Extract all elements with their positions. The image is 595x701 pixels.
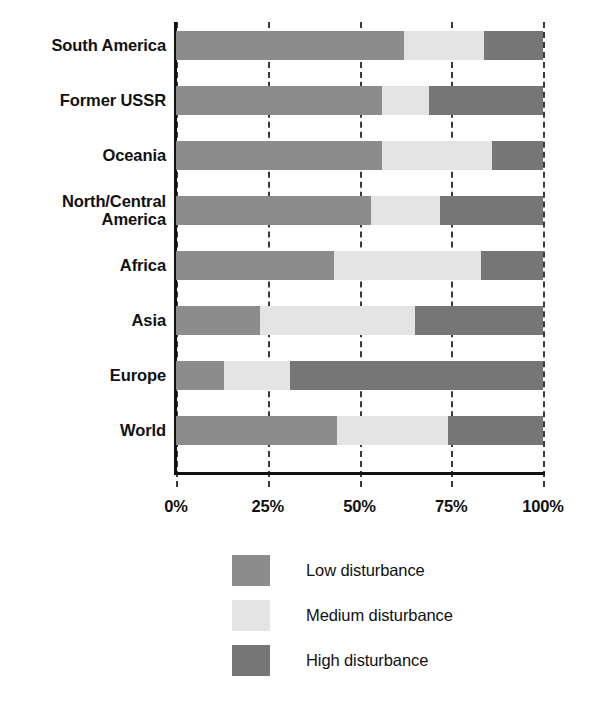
bar-segment-medium[interactable] xyxy=(334,251,481,280)
y-axis-label-line: Europe xyxy=(0,366,166,384)
bar-segment-high[interactable] xyxy=(440,196,543,225)
stacked-bar-chart: South AmericaFormer USSROceaniaNorth/Cen… xyxy=(0,0,595,701)
bar-row[interactable] xyxy=(176,416,543,445)
x-tick-label-100pct: 100% xyxy=(522,497,563,516)
y-axis-label-line: North/Central xyxy=(0,192,166,210)
bar-segment-medium[interactable] xyxy=(382,141,492,170)
stacked-bar[interactable] xyxy=(176,361,543,390)
bar-segment-medium[interactable] xyxy=(371,196,441,225)
legend: Low disturbanceMedium disturbanceHigh di… xyxy=(232,548,453,683)
bar-segment-medium[interactable] xyxy=(337,416,447,445)
y-axis-label-world: World xyxy=(0,421,166,439)
legend-swatch-low xyxy=(232,555,270,586)
bar-segment-high[interactable] xyxy=(448,416,543,445)
y-axis-label-line: Asia xyxy=(0,311,166,329)
legend-swatch-medium xyxy=(232,600,270,631)
y-axis-label-europe: Europe xyxy=(0,366,166,384)
stacked-bar[interactable] xyxy=(176,416,543,445)
bar-segment-medium[interactable] xyxy=(224,361,290,390)
gridline-100pct xyxy=(543,22,545,487)
bar-segment-low[interactable] xyxy=(176,416,337,445)
bar-segment-high[interactable] xyxy=(415,306,543,335)
y-axis-label-north-central-america: North/CentralAmerica xyxy=(0,192,166,228)
stacked-bar[interactable] xyxy=(176,86,543,115)
bar-segment-medium[interactable] xyxy=(382,86,430,115)
bar-segment-low[interactable] xyxy=(176,141,382,170)
bar-segment-low[interactable] xyxy=(176,361,224,390)
plot-area xyxy=(176,22,543,474)
bar-row[interactable] xyxy=(176,31,543,60)
bar-row[interactable] xyxy=(176,141,543,170)
y-axis-label-line: Africa xyxy=(0,256,166,274)
y-axis-label-line: Former USSR xyxy=(0,91,166,109)
stacked-bar[interactable] xyxy=(176,141,543,170)
bar-row[interactable] xyxy=(176,306,543,335)
y-axis-label-line: South America xyxy=(0,36,166,54)
bar-row[interactable] xyxy=(176,251,543,280)
bar-segment-medium[interactable] xyxy=(404,31,485,60)
legend-swatch-high xyxy=(232,645,270,676)
bar-segment-high[interactable] xyxy=(429,86,543,115)
y-axis-label-line: Oceania xyxy=(0,146,166,164)
y-axis-label-asia: Asia xyxy=(0,311,166,329)
x-tick-label-50pct: 50% xyxy=(343,497,375,516)
bar-row[interactable] xyxy=(176,86,543,115)
stacked-bar[interactable] xyxy=(176,306,543,335)
x-tick-label-0pct: 0% xyxy=(164,497,187,516)
legend-item-medium[interactable]: Medium disturbance xyxy=(232,593,453,638)
bar-segment-low[interactable] xyxy=(176,31,404,60)
legend-label-low: Low disturbance xyxy=(306,561,425,580)
bar-segment-medium[interactable] xyxy=(260,306,414,335)
legend-item-low[interactable]: Low disturbance xyxy=(232,548,453,593)
y-axis-label-oceania: Oceania xyxy=(0,146,166,164)
legend-label-medium: Medium disturbance xyxy=(306,606,453,625)
bar-segment-high[interactable] xyxy=(481,251,543,280)
bar-row[interactable] xyxy=(176,196,543,225)
y-axis-label-line: World xyxy=(0,421,166,439)
bar-segment-low[interactable] xyxy=(176,306,260,335)
stacked-bar[interactable] xyxy=(176,251,543,280)
legend-item-high[interactable]: High disturbance xyxy=(232,638,453,683)
bar-segment-high[interactable] xyxy=(484,31,543,60)
bar-row[interactable] xyxy=(176,361,543,390)
bar-segment-low[interactable] xyxy=(176,251,334,280)
x-tick-label-25pct: 25% xyxy=(252,497,284,516)
bar-segment-low[interactable] xyxy=(176,196,371,225)
bar-segment-high[interactable] xyxy=(290,361,543,390)
stacked-bar[interactable] xyxy=(176,31,543,60)
y-axis-label-africa: Africa xyxy=(0,256,166,274)
y-axis-label-former-ussr: Former USSR xyxy=(0,91,166,109)
y-axis-label-line: America xyxy=(0,210,166,228)
x-tick-label-75pct: 75% xyxy=(435,497,467,516)
bar-segment-low[interactable] xyxy=(176,86,382,115)
bar-segment-high[interactable] xyxy=(492,141,543,170)
legend-label-high: High disturbance xyxy=(306,651,428,670)
y-axis-label-south-america: South America xyxy=(0,36,166,54)
stacked-bar[interactable] xyxy=(176,196,543,225)
